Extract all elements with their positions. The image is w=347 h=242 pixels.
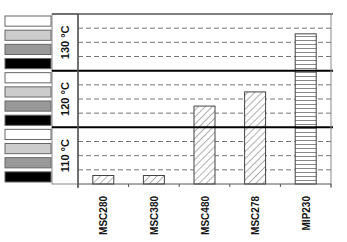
bar-msc278: [245, 92, 266, 184]
legend-swatch: [5, 158, 51, 168]
legend-swatch: [5, 129, 51, 139]
x-tick-label: MSC380: [149, 196, 160, 235]
legend-swatch: [5, 16, 51, 26]
band-label: 130 °C: [59, 25, 71, 59]
chart: MSC280MSC380MSC480MSC278MIP230110 °C120 …: [0, 0, 347, 242]
bar-mip230: [295, 34, 316, 184]
legend-swatch: [5, 172, 51, 182]
x-tick-label: MSC280: [98, 196, 109, 235]
legend-swatch: [5, 59, 51, 69]
bar-msc480: [194, 106, 215, 184]
bar-msc380: [143, 176, 164, 185]
x-tick-label: MSC480: [200, 196, 211, 235]
legend-swatch: [5, 30, 51, 40]
band-label: 110 °C: [59, 139, 71, 172]
legend-swatch: [5, 73, 51, 83]
x-tick-label: MIP230: [301, 196, 312, 231]
legend-swatch: [5, 44, 51, 54]
x-tick-label: MSC278: [250, 196, 261, 235]
legend-swatch: [5, 144, 51, 154]
legend-swatch: [5, 115, 51, 125]
legend-swatch: [5, 87, 51, 97]
axes: [52, 13, 333, 188]
bar-msc280: [93, 176, 114, 185]
band-label: 120 °C: [59, 82, 71, 116]
legend-swatch: [5, 101, 51, 111]
